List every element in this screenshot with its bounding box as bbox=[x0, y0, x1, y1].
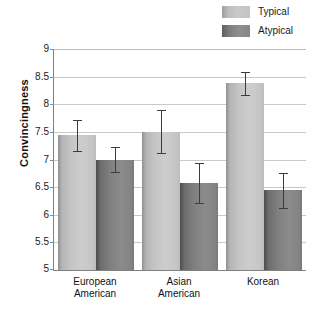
legend-label-atypical: Atypical bbox=[258, 25, 293, 37]
bars-group bbox=[54, 49, 306, 270]
y-axis-tick-label: 5.5 bbox=[35, 237, 49, 247]
error-bar-line bbox=[199, 163, 200, 203]
y-axis-tick-label: 6 bbox=[43, 210, 49, 220]
y-axis-tick-label: 7.5 bbox=[35, 127, 49, 137]
x-axis-labels: EuropeanAmericanAsianAmericanKorean bbox=[53, 276, 305, 310]
error-bar-cap-upper bbox=[279, 173, 288, 174]
legend-swatch-typical-icon bbox=[222, 6, 250, 18]
plot-area: 98.587.576.565.55 bbox=[53, 49, 306, 271]
legend-label-typical: Typical bbox=[258, 6, 289, 18]
legend-swatch-atypical-icon bbox=[222, 25, 250, 37]
y-axis-tick-label: 9 bbox=[43, 44, 49, 54]
y-axis-title: Convincingness bbox=[18, 68, 30, 178]
error-bar-cap-upper bbox=[111, 147, 120, 148]
x-axis-label: EuropeanAmerican bbox=[53, 276, 137, 300]
x-axis-label: Korean bbox=[221, 276, 305, 288]
bar-atypical bbox=[96, 160, 134, 271]
x-axis-label-line: Asian bbox=[137, 276, 221, 288]
legend-item-atypical: Atypical bbox=[222, 23, 316, 39]
error-bar-cap-lower bbox=[195, 203, 204, 204]
error-bar-cap-lower bbox=[279, 208, 288, 209]
error-bar-cap-upper bbox=[157, 110, 166, 111]
y-axis-tick-label: 8 bbox=[43, 99, 49, 109]
chart-legend: Typical Atypical bbox=[222, 4, 316, 40]
error-bar-cap-lower bbox=[111, 172, 120, 173]
legend-item-typical: Typical bbox=[222, 4, 316, 20]
error-bar-cap-upper bbox=[195, 163, 204, 164]
x-axis-label-line: American bbox=[53, 288, 137, 300]
y-axis-tick-label: 6.5 bbox=[35, 182, 49, 192]
bar-chart-figure: Typical Atypical Convincingness 98.587.5… bbox=[0, 0, 319, 314]
error-bar-line bbox=[161, 110, 162, 153]
x-axis-label: AsianAmerican bbox=[137, 276, 221, 300]
x-axis-label-line: European bbox=[53, 276, 137, 288]
y-axis-tick-label: 8.5 bbox=[35, 72, 49, 82]
bar-typical bbox=[226, 83, 264, 270]
error-bar-line bbox=[115, 147, 116, 172]
error-bar-cap-lower bbox=[73, 151, 82, 152]
error-bar-cap-upper bbox=[73, 120, 82, 121]
error-bar-line bbox=[283, 173, 284, 207]
y-axis-tick-label: 5 bbox=[43, 264, 49, 274]
x-axis-label-line: Korean bbox=[221, 276, 305, 288]
error-bar-cap-upper bbox=[241, 72, 250, 73]
error-bar-line bbox=[77, 120, 78, 151]
error-bar-cap-lower bbox=[241, 95, 250, 96]
error-bar-cap-lower bbox=[157, 153, 166, 154]
y-axis-tick-label: 7 bbox=[43, 155, 49, 165]
x-axis-label-line: American bbox=[137, 288, 221, 300]
bar-typical bbox=[58, 135, 96, 270]
error-bar-line bbox=[245, 72, 246, 95]
